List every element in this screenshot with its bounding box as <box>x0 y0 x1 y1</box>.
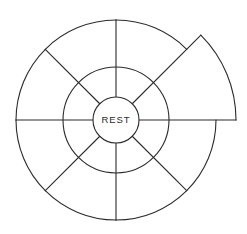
wheel-diagram: REST <box>0 0 247 234</box>
hub-label: REST <box>102 114 131 125</box>
wheel-diagram-canvas: REST <box>0 0 247 234</box>
